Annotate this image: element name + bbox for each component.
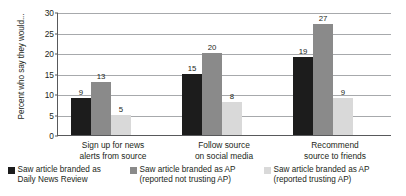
bar-wrap-g1-s1: 20 [202, 13, 222, 135]
bar-group-sign-up: 9 13 5 [68, 13, 134, 135]
bar-value-g1-s0: 15 [182, 64, 202, 73]
bar-value-g0-s0: 9 [71, 88, 91, 97]
category-label-follow-source-line2: on social media [168, 151, 280, 162]
y-tick-25: 25 [45, 29, 54, 39]
bar-g0-s1[interactable] [91, 82, 111, 135]
bar-value-g1-s1: 20 [202, 43, 222, 52]
gridline-0: 0 [58, 136, 391, 137]
category-label-follow-source-line1: Follow source [168, 140, 280, 151]
bar-g1-s2[interactable] [222, 102, 242, 135]
category-label-recommend-source-line2: source to friends [279, 151, 391, 162]
legend-item-ap-trusting[interactable]: Saw article branded as AP (reported trus… [264, 165, 394, 186]
legend-label-ap-not-trusting: Saw article branded as AP (reported not … [140, 165, 236, 186]
bar-value-g0-s1: 13 [91, 72, 111, 81]
y-axis-title: Percent who say they would... [17, 0, 26, 142]
tick-mark-25 [55, 33, 59, 34]
y-tick-0: 0 [49, 131, 54, 141]
category-label-recommend-source: Recommend source to friends [279, 140, 391, 161]
bar-wrap-g1-s0: 15 [182, 13, 202, 135]
tick-mark-30 [55, 13, 59, 14]
bar-g2-s0[interactable] [293, 57, 313, 135]
legend-swatch-icon-ap-trusting [264, 167, 271, 174]
tick-mark-10 [55, 95, 59, 96]
tick-mark-0 [55, 136, 59, 137]
bar-group-recommend-source: 19 27 9 [290, 13, 356, 135]
bar-wrap-g2-s2: 9 [333, 13, 353, 135]
y-tick-20: 20 [45, 49, 54, 59]
bar-g0-s0[interactable] [71, 98, 91, 135]
category-label-sign-up: Sign up for news alerts from source [57, 140, 169, 161]
category-label-sign-up-line1: Sign up for news [57, 140, 169, 151]
bar-g2-s1[interactable] [313, 24, 333, 135]
category-label-sign-up-line2: alerts from source [57, 151, 169, 162]
bar-wrap-g2-s1: 27 [313, 13, 333, 135]
legend-swatch-icon-ap-not-trusting [130, 167, 137, 174]
legend-label-daily-news-review: Saw article branded as Daily News Review [18, 165, 101, 186]
legend-item-daily-news-review[interactable]: Saw article branded as Daily News Review [8, 165, 128, 186]
bar-wrap-g1-s2: 8 [222, 13, 242, 135]
bar-wrap-g0-s1: 13 [91, 13, 111, 135]
bar-wrap-g0-s2: 5 [111, 13, 131, 135]
bar-value-g2-s1: 27 [313, 14, 333, 23]
category-label-follow-source: Follow source on social media [168, 140, 280, 161]
category-label-recommend-source-line1: Recommend [279, 140, 391, 151]
y-tick-30: 30 [45, 8, 54, 18]
bar-g0-s2[interactable] [111, 115, 131, 136]
bar-g2-s2[interactable] [333, 98, 353, 135]
tick-mark-5 [55, 115, 59, 116]
legend: Saw article branded as Daily News Review… [0, 165, 406, 186]
bar-group-follow-source: 15 20 8 [179, 13, 245, 135]
bar-value-g2-s2: 9 [333, 88, 353, 97]
bar-wrap-g2-s0: 19 [293, 13, 313, 135]
tick-mark-15 [55, 74, 59, 75]
tick-mark-20 [55, 54, 59, 55]
bar-chart: Percent who say they would... 30 25 20 1… [0, 0, 406, 196]
legend-item-ap-not-trusting[interactable]: Saw article branded as AP (reported not … [130, 165, 262, 186]
legend-swatch-icon-daily-news-review [8, 167, 15, 174]
bar-g1-s0[interactable] [182, 74, 202, 136]
y-tick-15: 15 [45, 70, 54, 80]
bar-value-g1-s2: 8 [222, 92, 242, 101]
plot-area: 30 25 20 15 10 5 0 9 [57, 13, 391, 136]
legend-label-ap-trusting: Saw article branded as AP (reported trus… [274, 165, 370, 186]
bar-value-g0-s2: 5 [111, 105, 131, 114]
bar-wrap-g0-s0: 9 [71, 13, 91, 135]
y-tick-10: 10 [45, 90, 54, 100]
y-tick-5: 5 [49, 111, 54, 121]
bar-value-g2-s0: 19 [293, 47, 313, 56]
bar-g1-s1[interactable] [202, 53, 222, 135]
